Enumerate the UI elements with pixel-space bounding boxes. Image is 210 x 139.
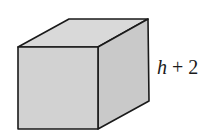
cube-front-face [18, 47, 98, 129]
edge-label-variable: h [157, 56, 167, 78]
edge-length-label: h + 2 [157, 56, 198, 78]
edge-label-constant: 2 [188, 56, 198, 78]
edge-label-operator: + [167, 56, 188, 78]
